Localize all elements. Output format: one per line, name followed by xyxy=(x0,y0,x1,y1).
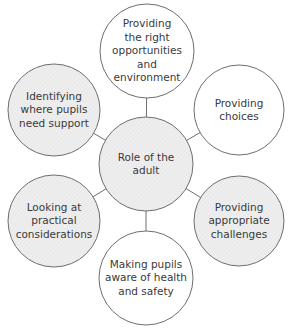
connector-challenges xyxy=(186,189,201,198)
node-practical-circle xyxy=(8,175,100,267)
node-choices-circle xyxy=(194,65,284,155)
connector-support xyxy=(94,133,106,140)
node-support-circle xyxy=(8,64,100,156)
node-circles xyxy=(8,4,284,325)
node-challenges-circle xyxy=(194,176,284,266)
node-health-circle xyxy=(99,231,193,325)
center-node-role-circle xyxy=(99,117,193,211)
node-opportunities-circle xyxy=(100,4,194,98)
spider-diagram xyxy=(0,0,289,329)
connector-choices xyxy=(187,133,200,141)
connector-practical xyxy=(93,189,106,197)
